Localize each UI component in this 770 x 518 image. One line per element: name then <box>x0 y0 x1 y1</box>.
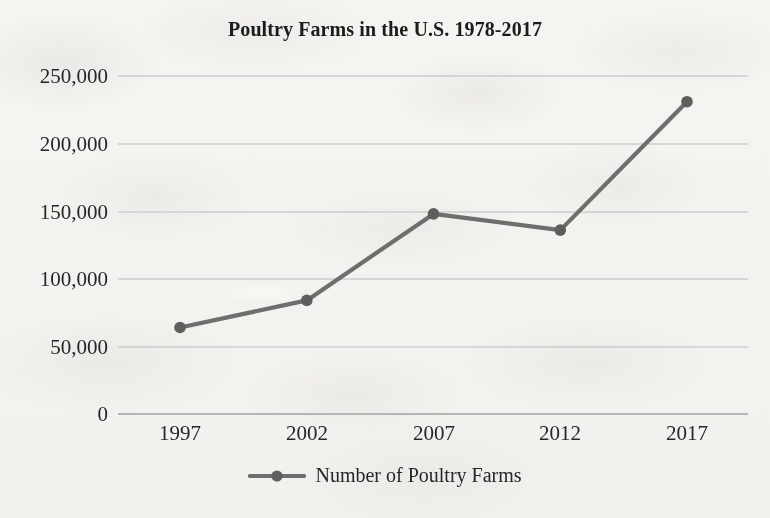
data-point-2012 <box>555 224 567 236</box>
x-tick-label-2012: 2012 <box>539 421 581 446</box>
legend-marker-icon <box>248 467 306 485</box>
chart-page: Poultry Farms in the U.S. 1978-2017 250,… <box>0 0 770 518</box>
legend-label-number-of-poultry-farms: Number of Poultry Farms <box>315 464 521 487</box>
data-point-2007 <box>428 208 440 220</box>
x-tick-label-2007: 2007 <box>413 421 455 446</box>
data-point-1997 <box>174 322 186 334</box>
x-tick-label-1997: 1997 <box>159 421 201 446</box>
chart-legend: Number of Poultry Farms <box>0 464 770 487</box>
data-point-2002 <box>301 295 313 307</box>
scan-fade-artifact <box>232 286 290 300</box>
data-point-2017 <box>681 96 693 108</box>
x-tick-label-2017: 2017 <box>666 421 708 446</box>
plot-area <box>0 0 770 518</box>
x-tick-label-2002: 2002 <box>286 421 328 446</box>
